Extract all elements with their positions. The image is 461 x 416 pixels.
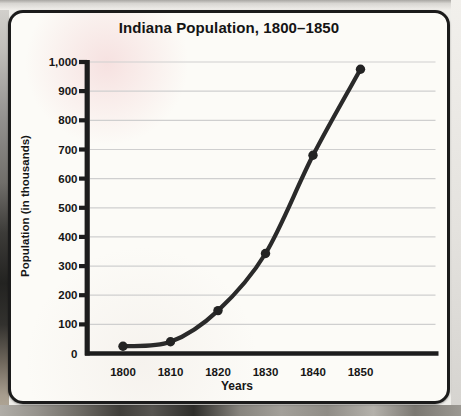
scan-photo-strip-bottom <box>0 405 461 416</box>
x-axis-title: Years <box>221 379 253 393</box>
chart-card <box>8 10 450 404</box>
y-axis-title: Population (in thousands) <box>19 135 31 277</box>
chart-title: Indiana Population, 1800–1850 <box>8 19 450 36</box>
scan-edge-right <box>451 0 461 416</box>
textbook-chart-scan: 01002003004005006007008009001,000 180018… <box>0 0 461 416</box>
scan-edge-top <box>0 0 461 10</box>
